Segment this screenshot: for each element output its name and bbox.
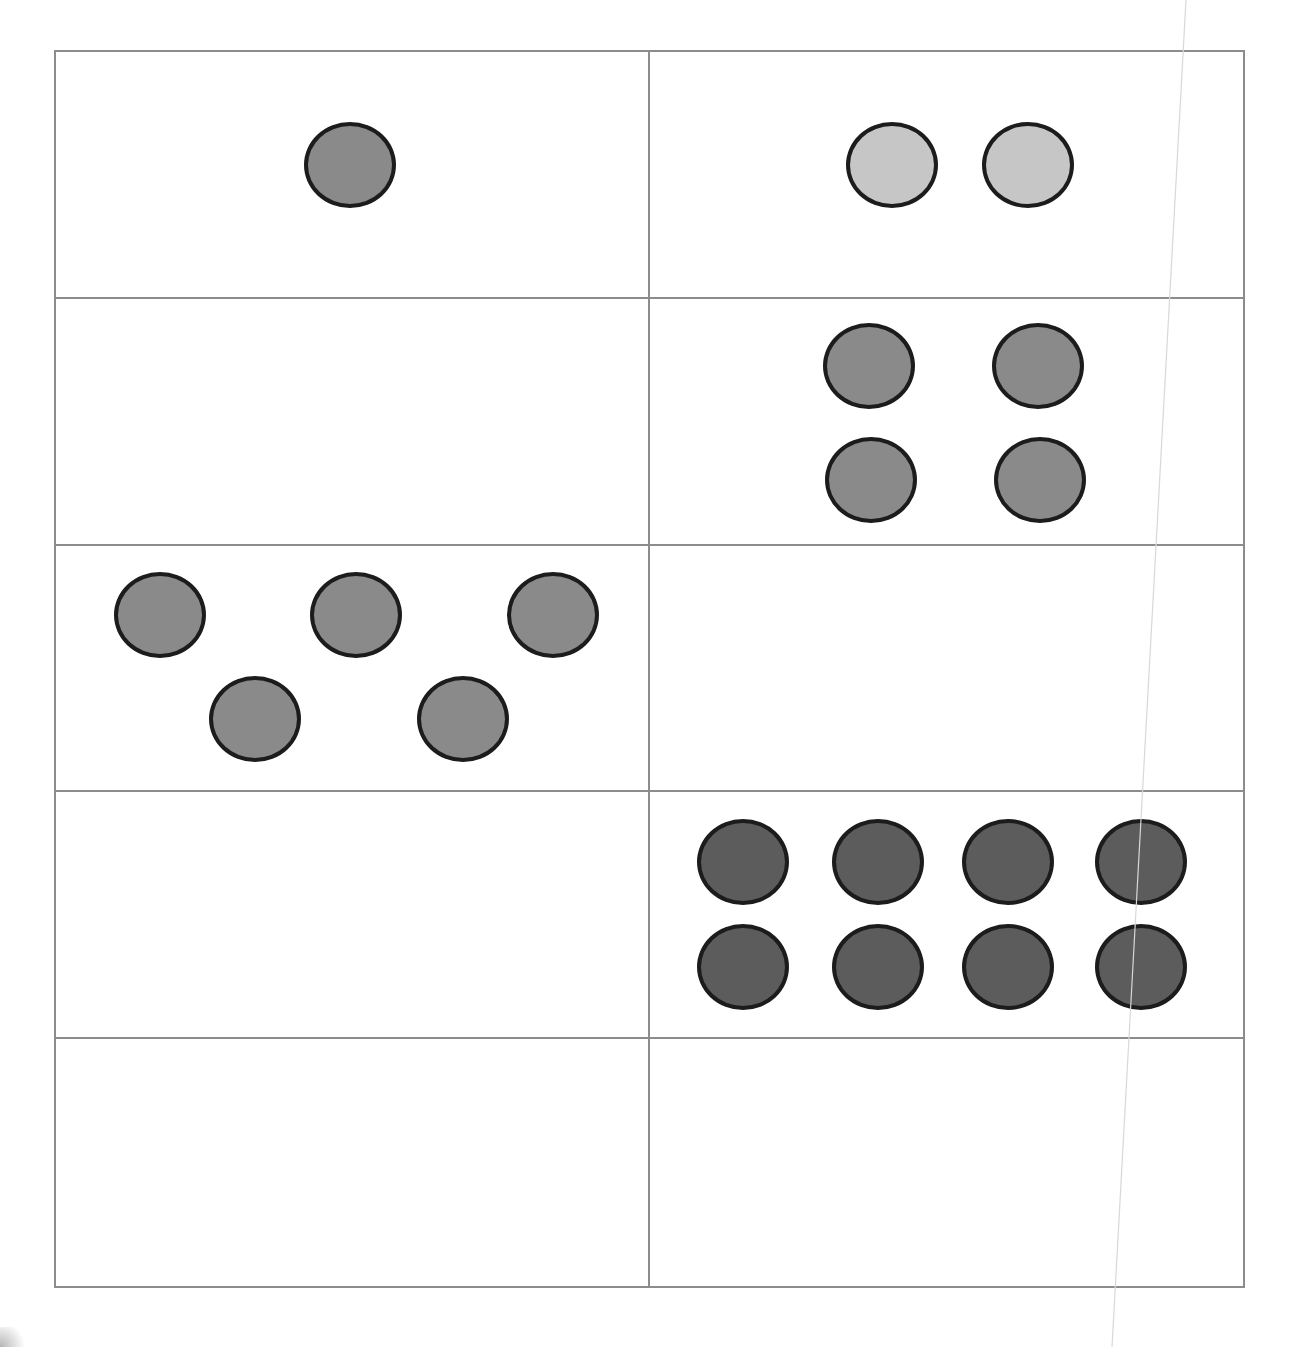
counter-circle (832, 924, 924, 1010)
counter-circle (962, 819, 1054, 905)
counter-circle (1095, 819, 1187, 905)
counter-circle (114, 572, 206, 658)
clipped-header-text (110, 0, 1110, 14)
grid-cell-r4-c1 (56, 792, 650, 1039)
grid-cell-r3-c2 (650, 546, 1244, 793)
counter-circle (992, 323, 1084, 409)
counting-grid (54, 50, 1245, 1288)
grid-cell-r5-c2 (650, 1039, 1244, 1286)
grid-cell-r2-c1 (56, 299, 650, 546)
grid-cell-r4-c2 (650, 792, 1244, 1039)
grid-cell-r5-c1 (56, 1039, 650, 1286)
grid-cell-r1-c1 (56, 52, 650, 299)
corner-shadow (0, 1327, 30, 1347)
counter-circle (832, 819, 924, 905)
counter-circle (1095, 924, 1187, 1010)
counter-circle (994, 437, 1086, 523)
counter-circle (507, 572, 599, 658)
counter-circle (417, 676, 509, 762)
grid-cell-r3-c1 (56, 546, 650, 793)
counter-circle (982, 122, 1074, 208)
counter-circle (304, 122, 396, 208)
counter-circle (823, 323, 915, 409)
counter-circle (697, 924, 789, 1010)
grid-cell-r1-c2 (650, 52, 1244, 299)
counter-circle (825, 437, 917, 523)
grid-cell-r2-c2 (650, 299, 1244, 546)
counter-circle (962, 924, 1054, 1010)
counter-circle (209, 676, 301, 762)
counter-circle (697, 819, 789, 905)
counter-circle (310, 572, 402, 658)
counter-circle (846, 122, 938, 208)
